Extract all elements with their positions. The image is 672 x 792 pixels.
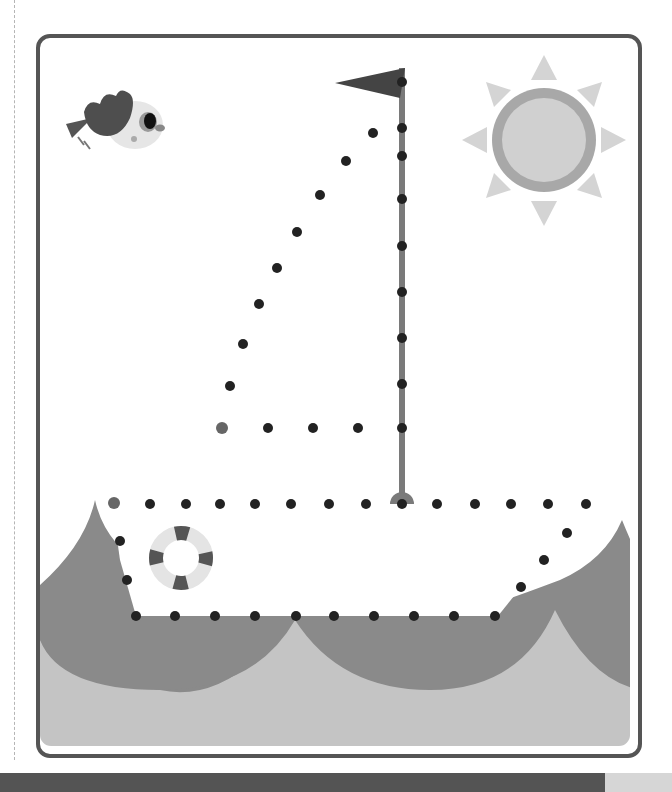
dot <box>254 299 264 309</box>
dot <box>292 227 302 237</box>
dot <box>397 287 407 297</box>
dot <box>329 611 339 621</box>
dot <box>108 497 120 509</box>
dot <box>115 536 125 546</box>
dot <box>397 151 407 161</box>
dot <box>210 611 220 621</box>
dot <box>581 499 591 509</box>
dot <box>353 423 363 433</box>
dot <box>286 499 296 509</box>
dot <box>238 339 248 349</box>
dot <box>369 611 379 621</box>
dot <box>122 575 132 585</box>
dot <box>470 499 480 509</box>
dot <box>397 333 407 343</box>
bottom-bar <box>0 773 605 792</box>
dot <box>432 499 442 509</box>
sun-icon <box>462 55 626 226</box>
dot <box>308 423 318 433</box>
dot <box>263 423 273 433</box>
dot <box>516 582 526 592</box>
dot <box>368 128 378 138</box>
dot <box>397 423 407 433</box>
dot <box>145 499 155 509</box>
dot <box>397 77 407 87</box>
dot <box>216 422 228 434</box>
dot <box>215 499 225 509</box>
dot <box>397 241 407 251</box>
dot <box>315 190 325 200</box>
sailboat-scene <box>0 0 672 792</box>
dot <box>539 555 549 565</box>
dot <box>506 499 516 509</box>
dot <box>397 123 407 133</box>
dot <box>272 263 282 273</box>
dot <box>543 499 553 509</box>
dot <box>250 499 260 509</box>
bird-icon <box>66 90 165 149</box>
dot <box>397 379 407 389</box>
dot <box>562 528 572 538</box>
mast <box>399 68 405 504</box>
dot <box>324 499 334 509</box>
dot <box>131 611 141 621</box>
flag-icon <box>335 68 405 98</box>
dot <box>361 499 371 509</box>
bottom-bar-end <box>605 773 672 792</box>
dot <box>409 611 419 621</box>
dot <box>170 611 180 621</box>
dot <box>250 611 260 621</box>
dot <box>449 611 459 621</box>
dot <box>225 381 235 391</box>
dot <box>397 194 407 204</box>
dot <box>490 611 500 621</box>
dot <box>291 611 301 621</box>
dot <box>181 499 191 509</box>
dot <box>397 499 407 509</box>
dot <box>341 156 351 166</box>
